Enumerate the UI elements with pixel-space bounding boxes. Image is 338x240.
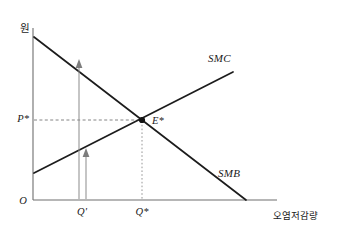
q-prime-benefit-arrow-head xyxy=(76,59,83,68)
origin-label: O xyxy=(19,195,27,206)
x-axis-label: 오염저감량 xyxy=(273,210,318,221)
equilibrium-label: E* xyxy=(151,115,164,126)
q-prime-cost-arrow-head xyxy=(83,148,90,157)
economics-diagram: 원 오염저감량 O SMC SMB E* P* Q' Q* xyxy=(0,0,338,240)
smc-curve-label: SMC xyxy=(208,52,231,64)
q-star-tick-label: Q* xyxy=(136,206,150,217)
price-star-label: P* xyxy=(16,113,29,124)
q-prime-tick-label: Q' xyxy=(77,206,88,217)
smb-curve-label: SMB xyxy=(218,167,240,179)
equilibrium-dot xyxy=(139,117,145,123)
y-axis-label: 원 xyxy=(20,22,30,34)
smc-curve xyxy=(34,72,233,173)
smc-smb-plot: 원 오염저감량 O SMC SMB E* P* Q' Q* xyxy=(0,0,338,240)
